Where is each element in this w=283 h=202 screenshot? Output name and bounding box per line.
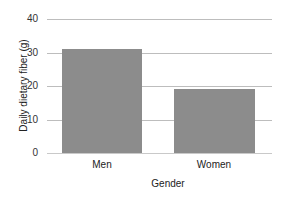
x-axis-label: Gender: [128, 178, 208, 189]
y-tick-label: 40: [18, 13, 38, 24]
x-tick-label-men: Men: [62, 159, 142, 170]
y-tick-label: 0: [18, 147, 38, 158]
x-axis-line: [47, 153, 272, 154]
gridline-40: [47, 19, 272, 20]
bar-chart: 40 30 20 10 0 Men Women Gender Daily die…: [0, 0, 283, 202]
y-axis-label: Daily dietary fiber (g): [18, 31, 29, 141]
x-tick-label-women: Women: [174, 159, 254, 170]
bar-women: [174, 89, 255, 153]
bar-men: [62, 49, 142, 153]
